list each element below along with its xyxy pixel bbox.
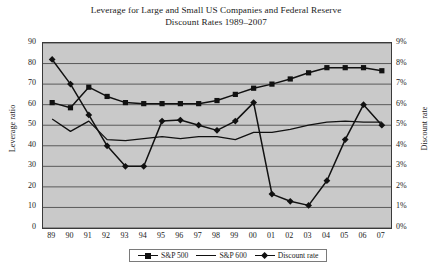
chart-title-line-1: Leverage for Large and Small US Companie… xyxy=(0,5,432,17)
data-point-marker xyxy=(86,85,91,90)
data-point-marker xyxy=(306,70,311,75)
data-point-marker xyxy=(50,100,55,105)
data-point-marker xyxy=(379,68,384,73)
series-discount-rate xyxy=(49,56,385,209)
y-axis-left-tick-label: 80 xyxy=(2,58,36,67)
y-axis-right-tick-label: 1% xyxy=(396,201,430,210)
legend-marker-diamond-icon xyxy=(255,251,275,260)
legend-item[interactable]: S&P 600 xyxy=(196,251,246,260)
y-axis-left-tick-label: 20 xyxy=(2,181,36,190)
data-point-marker xyxy=(269,82,274,87)
data-point-marker xyxy=(269,191,276,198)
data-point-marker xyxy=(342,136,349,143)
y-axis-left-tick-label: 70 xyxy=(2,78,36,87)
y-axis-right-tick-label: 3% xyxy=(396,160,430,169)
data-point-marker xyxy=(105,94,110,99)
data-point-marker xyxy=(343,65,348,70)
data-point-marker xyxy=(251,86,256,91)
series-s-p-500 xyxy=(50,65,385,110)
data-point-marker xyxy=(68,105,73,110)
chart-title: Leverage for Large and Small US Companie… xyxy=(0,5,432,28)
y-axis-left-tick-label: 40 xyxy=(2,140,36,149)
data-point-marker xyxy=(159,118,166,125)
y-axis-left-tick-label: 30 xyxy=(2,160,36,169)
legend-label: Discount rate xyxy=(278,251,319,260)
chart-figure: Leverage for Large and Small US Companie… xyxy=(0,0,432,269)
data-point-marker xyxy=(177,117,184,124)
plot-area xyxy=(42,42,392,229)
legend-label: S&P 600 xyxy=(219,251,246,260)
y-axis-right-tick-label: 4% xyxy=(396,140,430,149)
y-axis-right-tick-label: 2% xyxy=(396,181,430,190)
y-axis-left-tick-label: 50 xyxy=(2,119,36,128)
y-axis-left-tick-label: 10 xyxy=(2,201,36,210)
data-point-marker xyxy=(233,92,238,97)
plot-svg xyxy=(43,43,391,228)
data-point-marker xyxy=(140,163,147,170)
data-point-marker xyxy=(214,98,219,103)
y-axis-left-tick-label: 60 xyxy=(2,99,36,108)
data-point-marker xyxy=(361,65,366,70)
chart-legend: S&P 500S&P 600Discount rate xyxy=(129,249,327,262)
data-point-marker xyxy=(159,101,164,106)
chart-title-line-2: Discount Rates 1989–2007 xyxy=(0,17,432,29)
x-axis-tick-label: 07 xyxy=(368,231,394,240)
legend-item[interactable]: S&P 500 xyxy=(138,251,188,260)
y-axis-left-tick-label: 90 xyxy=(2,37,36,46)
y-axis-left-tick-label: 0 xyxy=(2,222,36,231)
data-point-marker xyxy=(214,127,221,134)
y-axis-right-tick-label: 8% xyxy=(396,58,430,67)
data-point-marker xyxy=(178,101,183,106)
data-point-marker xyxy=(288,76,293,81)
legend-label: S&P 500 xyxy=(161,251,188,260)
data-point-marker xyxy=(195,122,202,129)
y-axis-right-tick-label: 0% xyxy=(396,222,430,231)
data-point-marker xyxy=(287,198,294,205)
legend-marker-line-icon xyxy=(196,251,216,260)
data-point-marker xyxy=(141,101,146,106)
data-point-marker xyxy=(123,100,128,105)
data-point-marker xyxy=(85,112,92,119)
data-point-marker xyxy=(324,65,329,70)
y-axis-right-tick-label: 6% xyxy=(396,99,430,108)
y-axis-right-tick-label: 7% xyxy=(396,78,430,87)
data-point-marker xyxy=(196,101,201,106)
y-axis-right-tick-label: 9% xyxy=(396,37,430,46)
legend-marker-square-icon xyxy=(138,251,158,260)
legend-item[interactable]: Discount rate xyxy=(255,251,319,260)
y-axis-right-tick-label: 5% xyxy=(396,119,430,128)
